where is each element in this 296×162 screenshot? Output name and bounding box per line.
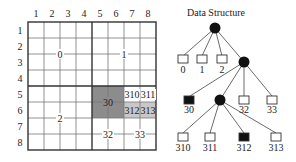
tree-title: Data Structure — [187, 7, 246, 18]
leaf-0-icon — [178, 55, 188, 63]
column-labels: 1 2 3 4 5 6 7 8 — [34, 8, 151, 19]
region-label-310: 310 — [125, 89, 140, 100]
row-label: 5 — [18, 89, 23, 100]
row-label: 3 — [18, 57, 23, 68]
region-label-32: 32 — [103, 129, 113, 140]
leaf-313-icon — [271, 133, 281, 141]
region-label-33: 33 — [135, 129, 145, 140]
leaf-label: 2 — [220, 64, 225, 75]
internal-node-31-icon — [215, 95, 226, 106]
col-label: 3 — [66, 8, 71, 19]
leaf-label: 313 — [269, 142, 284, 153]
leaf-30-icon — [184, 96, 194, 104]
region-label-2: 2 — [58, 113, 63, 124]
leaf-label: 1 — [200, 64, 205, 75]
row-label: 7 — [18, 121, 23, 132]
col-label: 6 — [114, 8, 119, 19]
leaf-311-icon — [205, 133, 215, 141]
leaf-1-icon — [197, 55, 207, 63]
leaf-label: 32 — [239, 104, 249, 115]
leaf-33-icon — [267, 96, 277, 104]
quadtree-figure: 1 2 3 4 5 6 7 8 1 2 3 4 5 6 7 8 0 1 2 30… — [0, 0, 296, 162]
region-label-311: 311 — [141, 89, 156, 100]
leaf-label: 311 — [203, 142, 218, 153]
tree-leaves — [178, 55, 281, 141]
region-label-312: 312 — [125, 105, 140, 116]
tree-edges — [183, 28, 276, 133]
leaf-310-icon — [178, 133, 188, 141]
col-label: 7 — [130, 8, 135, 19]
region-label-1: 1 — [122, 49, 127, 60]
region-label-313: 313 — [141, 105, 156, 116]
leaf-32-icon — [239, 96, 249, 104]
col-label: 2 — [50, 8, 55, 19]
col-label: 8 — [146, 8, 151, 19]
root-node-icon — [210, 23, 221, 34]
row-label: 1 — [18, 25, 23, 36]
row-label: 2 — [18, 41, 23, 52]
col-label: 4 — [82, 8, 87, 19]
row-labels: 1 2 3 4 5 6 7 8 — [18, 25, 23, 148]
row-label: 8 — [18, 137, 23, 148]
leaf-2-icon — [217, 55, 227, 63]
col-label: 1 — [34, 8, 39, 19]
leaf-label: 0 — [181, 64, 186, 75]
region-label-30: 30 — [103, 97, 113, 108]
leaf-label: 312 — [237, 142, 252, 153]
row-label: 6 — [18, 105, 23, 116]
internal-node-3-icon — [239, 57, 250, 68]
leaf-312-icon — [239, 133, 249, 141]
tree-leaf-labels: 0 1 2 30 32 33 310 311 312 313 — [176, 64, 284, 153]
row-label: 4 — [18, 73, 23, 84]
leaf-label: 30 — [184, 104, 194, 115]
leaf-label: 310 — [176, 142, 191, 153]
leaf-label: 33 — [267, 104, 277, 115]
region-label-0: 0 — [58, 49, 63, 60]
col-label: 5 — [98, 8, 103, 19]
